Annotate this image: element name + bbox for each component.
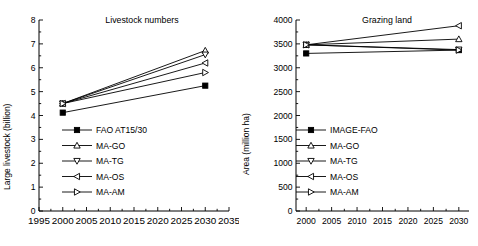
legend-label: IMAGE-FAO <box>330 125 378 135</box>
legend-item-ma-go[interactable]: MA-GO <box>296 141 359 151</box>
legend-marker <box>308 127 313 132</box>
x-tick-label: 2025 <box>171 217 194 226</box>
legend-marker <box>308 173 314 179</box>
data-point-marker <box>202 60 208 66</box>
legend-label: MA-OS <box>96 172 124 182</box>
chart-panel-livestock: Large livestock (billion) 01234567819952… <box>0 0 239 246</box>
x-tick-label: 2025 <box>424 216 443 226</box>
chart-title: Livestock numbers <box>105 15 179 25</box>
y-tick-label: 3 <box>31 134 36 144</box>
y-tick-label: 8 <box>31 15 36 25</box>
x-tick-label: 2000 <box>52 217 75 226</box>
y-tick-label: 4 <box>31 111 36 121</box>
x-tick-label: 1995 <box>28 217 51 226</box>
series-line <box>306 45 459 50</box>
legend-marker <box>74 127 79 132</box>
x-tick-label: 2020 <box>398 216 417 226</box>
y-tick-label: 1 <box>31 182 36 192</box>
x-tick-label: 2005 <box>76 217 99 226</box>
legend-label: MA-AM <box>330 187 359 197</box>
legend-marker <box>74 173 80 179</box>
x-tick-label: 2010 <box>347 216 366 226</box>
series-line <box>63 63 206 104</box>
y-tick-label: 4000 <box>273 15 292 25</box>
y-tick-label: 3500 <box>273 39 292 49</box>
legend-item-image-fao[interactable]: IMAGE-FAO <box>296 125 378 135</box>
x-tick-label: 2005 <box>322 216 341 226</box>
data-point-marker <box>60 110 65 115</box>
y-tick-label: 2500 <box>273 87 292 97</box>
legend-item-ma-am[interactable]: MA-AM <box>62 187 125 197</box>
y-tick-label: 2000 <box>273 111 292 121</box>
y-tick-label: 6 <box>31 63 36 73</box>
legend-label: FAO AT15/30 <box>96 125 147 135</box>
chart-panel-grazing: Area (million ha) 0500100015002000250030… <box>239 0 478 246</box>
legend-item-ma-tg[interactable]: MA-TG <box>296 156 358 166</box>
x-tick-label: 2010 <box>99 217 122 226</box>
legend-item-ma-am[interactable]: MA-AM <box>296 187 359 197</box>
data-point-marker <box>203 69 209 75</box>
legend-item-ma-os[interactable]: MA-OS <box>296 172 358 182</box>
x-tick-label: 2035 <box>218 217 239 226</box>
y-tick-label: 0 <box>31 206 36 216</box>
figure-root: Large livestock (billion) 01234567819952… <box>0 0 478 246</box>
chart-svg-left: 0123456781995200020052010201520202025203… <box>0 0 239 246</box>
y-tick-label: 1000 <box>273 158 292 168</box>
series-ma-am <box>60 69 208 106</box>
x-tick-label: 2015 <box>123 217 146 226</box>
y-tick-label: 7 <box>31 39 36 49</box>
data-point-marker <box>203 83 208 88</box>
x-tick-label: 2015 <box>373 216 392 226</box>
data-point-marker <box>304 51 309 56</box>
y-tick-label: 500 <box>278 182 293 192</box>
x-tick-label: 2030 <box>449 216 468 226</box>
y-tick-label: 2 <box>31 158 36 168</box>
legend-marker <box>74 189 80 195</box>
legend-label: MA-TG <box>96 156 124 166</box>
y-tick-label: 0 <box>288 206 293 216</box>
x-tick-label: 2000 <box>297 216 316 226</box>
legend-item-fao-at15-30[interactable]: FAO AT15/30 <box>62 125 147 135</box>
y-tick-label: 5 <box>31 87 36 97</box>
x-tick-label: 2030 <box>194 217 217 226</box>
data-point-marker <box>456 23 462 29</box>
chart-svg-right: 0500100015002000250030003500400020002005… <box>239 0 478 246</box>
legend-label: MA-GO <box>330 141 359 151</box>
x-tick-label: 2020 <box>147 217 170 226</box>
legend-item-ma-go[interactable]: MA-GO <box>62 141 125 151</box>
series-line <box>306 50 459 53</box>
legend-label: MA-GO <box>96 141 125 151</box>
legend-item-ma-tg[interactable]: MA-TG <box>62 156 124 166</box>
legend-marker <box>308 189 314 195</box>
series-line <box>63 55 206 104</box>
legend-label: MA-OS <box>330 172 358 182</box>
chart-title: Grazing land <box>362 15 412 25</box>
legend-label: MA-TG <box>330 156 358 166</box>
legend-label: MA-AM <box>96 187 125 197</box>
legend-item-ma-os[interactable]: MA-OS <box>62 172 124 182</box>
y-tick-label: 3000 <box>273 63 292 73</box>
plot-area-right: 0500100015002000250030003500400020002005… <box>239 0 478 246</box>
plot-area-left: 0123456781995200020052010201520202025203… <box>0 0 239 246</box>
y-tick-label: 1500 <box>273 134 292 144</box>
